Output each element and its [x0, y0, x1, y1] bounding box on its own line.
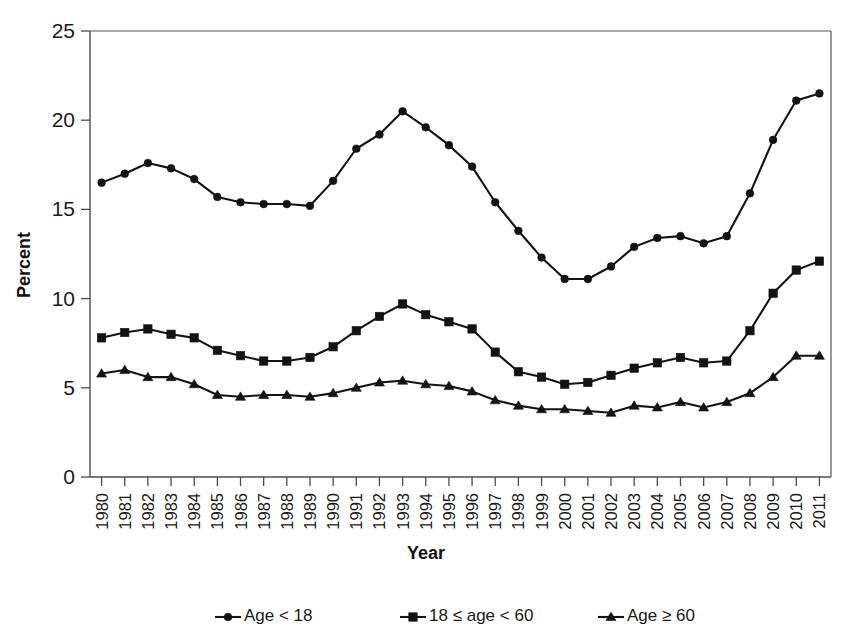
data-point-square	[491, 348, 499, 356]
data-point-circle	[607, 263, 615, 271]
data-point-circle	[121, 170, 129, 178]
x-tick-label: 1995	[440, 493, 458, 530]
data-point-square	[352, 327, 360, 335]
data-point-circle	[224, 613, 232, 621]
data-point-square	[468, 325, 476, 333]
x-tick-label: 2002	[602, 493, 620, 530]
data-point-circle	[329, 177, 337, 185]
x-tick-label: 2011	[810, 493, 828, 528]
data-point-circle	[260, 200, 268, 208]
y-tick-label: 20	[52, 108, 75, 131]
series-3	[97, 351, 825, 416]
data-point-square	[723, 357, 731, 365]
x-tick-label: 2006	[695, 493, 713, 530]
chart-figure: 0510152025 19801981198219831984198519861…	[0, 0, 856, 641]
data-point-circle	[700, 239, 708, 247]
legend-item-2[interactable]: 18 ≤ age < 60	[400, 606, 533, 625]
legend-label: 18 ≤ age < 60	[429, 606, 533, 625]
data-point-triangle	[120, 365, 130, 373]
data-point-square	[398, 300, 406, 308]
y-tick-label: 25	[52, 19, 75, 42]
data-point-square	[375, 312, 383, 320]
data-point-square	[167, 330, 175, 338]
x-tick-label: 1996	[463, 493, 481, 530]
data-point-square	[746, 327, 754, 335]
x-tick-label: 1981	[116, 493, 134, 530]
data-point-square	[607, 371, 615, 379]
data-point-square	[514, 368, 522, 376]
y-tick-label: 0	[63, 465, 75, 488]
line-chart: 0510152025 19801981198219831984198519861…	[0, 0, 856, 641]
x-tick-label: 2010	[787, 493, 805, 530]
data-point-square	[236, 351, 244, 359]
x-tick-label: 2005	[671, 493, 689, 530]
legend-item-1[interactable]: Age < 18	[215, 606, 313, 625]
x-tick-label: 1993	[394, 493, 412, 530]
x-tick-label: 1992	[370, 493, 388, 530]
x-tick-label: 1990	[324, 493, 342, 530]
data-point-circle	[491, 198, 499, 206]
data-point-circle	[213, 193, 221, 201]
data-point-circle	[816, 90, 824, 98]
legend-item-3[interactable]: Age ≥ 60	[598, 606, 695, 625]
data-point-circle	[746, 189, 754, 197]
data-point-square	[537, 373, 545, 381]
x-tick-label: 1994	[417, 493, 435, 530]
x-tick-label: 1999	[533, 493, 551, 530]
data-point-circle	[792, 97, 800, 105]
data-point-square	[283, 357, 291, 365]
data-point-square	[676, 353, 684, 361]
y-tick-label: 15	[52, 197, 75, 220]
data-point-square	[422, 310, 430, 318]
data-point-square	[769, 289, 777, 297]
data-point-circle	[399, 107, 407, 115]
chart-legend: Age < 1818 ≤ age < 60Age ≥ 60	[215, 606, 695, 625]
legend-label: Age ≥ 60	[627, 606, 695, 625]
data-point-square	[409, 613, 417, 621]
x-tick-label: 1991	[347, 493, 365, 530]
data-point-circle	[167, 165, 175, 173]
x-tick-label: 2001	[579, 493, 597, 530]
x-tick-label: 2009	[764, 493, 782, 530]
data-point-circle	[723, 232, 731, 240]
data-point-circle	[376, 131, 384, 139]
data-point-circle	[190, 175, 198, 183]
data-point-square	[306, 353, 314, 361]
data-point-circle	[445, 141, 453, 149]
data-point-circle	[584, 275, 592, 283]
x-axis: 1980198119821983198419851986198719881989…	[90, 477, 831, 530]
data-point-square	[329, 343, 337, 351]
x-tick-label: 1988	[278, 493, 296, 530]
data-point-triangle	[675, 397, 685, 405]
data-point-square	[445, 318, 453, 326]
x-tick-label: 1983	[162, 493, 180, 530]
data-point-square	[815, 257, 823, 265]
data-point-square	[190, 334, 198, 342]
x-tick-label: 1986	[232, 493, 250, 530]
data-point-circle	[468, 163, 476, 171]
data-point-square	[561, 380, 569, 388]
data-point-square	[97, 334, 105, 342]
x-tick-label: 1997	[486, 493, 504, 530]
data-point-square	[653, 359, 661, 367]
y-axis-title: Percent	[14, 232, 34, 298]
x-tick-label: 2000	[556, 493, 574, 530]
series-1	[98, 90, 824, 283]
data-point-circle	[283, 200, 291, 208]
data-point-square	[630, 364, 638, 372]
x-tick-label: 1989	[301, 493, 319, 530]
x-tick-label: 2004	[648, 493, 666, 530]
data-point-square	[792, 266, 800, 274]
y-axis: 0510152025	[52, 19, 90, 488]
legend-label: Age < 18	[244, 606, 313, 625]
data-point-square	[699, 359, 707, 367]
x-tick-label: 1984	[185, 493, 203, 530]
data-point-square	[144, 325, 152, 333]
data-point-circle	[538, 254, 546, 262]
data-point-circle	[306, 202, 314, 210]
data-point-circle	[677, 232, 685, 240]
data-point-circle	[515, 227, 523, 235]
x-tick-label: 2003	[625, 493, 643, 530]
data-point-circle	[561, 275, 569, 283]
x-tick-label: 1985	[208, 493, 226, 530]
